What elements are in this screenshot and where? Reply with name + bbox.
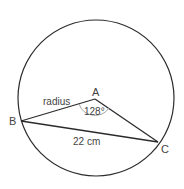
label-b: B	[9, 115, 16, 127]
circle-diagram: A B C radius 128° 22 cm	[0, 0, 184, 189]
label-angle: 128°	[84, 106, 105, 117]
label-a: A	[92, 86, 100, 98]
label-radius: radius	[43, 96, 70, 107]
circle	[18, 20, 174, 176]
label-chord: 22 cm	[73, 136, 100, 147]
label-c: C	[161, 143, 169, 155]
